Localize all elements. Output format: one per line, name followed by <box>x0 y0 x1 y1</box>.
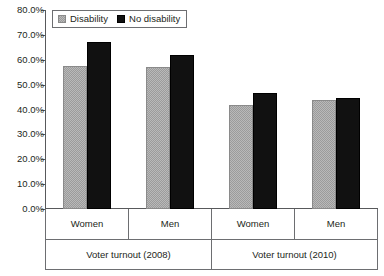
y-axis-tick-label: 80.0% <box>0 5 44 15</box>
category-axis-subgroups: WomenMenWomenMen <box>45 209 378 240</box>
bar-no-disability-1 <box>170 55 194 209</box>
bar-disability-1 <box>146 67 170 209</box>
category-label-2: Women <box>211 209 294 239</box>
legend-item-no-disability: No disability <box>117 13 180 24</box>
bar-disability-0 <box>63 66 87 209</box>
y-axis-tick-label: 70.0% <box>0 30 44 40</box>
category-label-0: Women <box>46 209 128 239</box>
y-axis-tick-label: 10.0% <box>0 179 44 189</box>
legend-swatch-disability <box>58 15 66 23</box>
bar-no-disability-3 <box>336 98 360 209</box>
group-label-1: Voter turnout (2010) <box>211 240 377 269</box>
plot-area <box>45 10 378 209</box>
bar-disability-3 <box>312 100 336 209</box>
group-label-0: Voter turnout (2008) <box>46 240 211 269</box>
legend-item-disability: Disability <box>58 13 108 24</box>
category-label-1: Men <box>128 209 211 239</box>
legend-label-disability: Disability <box>70 13 108 24</box>
y-axis-tick-label: 20.0% <box>0 154 44 164</box>
y-axis-tick-label: 40.0% <box>0 105 44 115</box>
y-axis-tick-label: 60.0% <box>0 55 44 65</box>
chart-legend: Disability No disability <box>52 10 187 28</box>
bar-no-disability-0 <box>87 42 111 209</box>
bar-disability-2 <box>229 105 253 209</box>
legend-swatch-no-disability <box>117 15 125 23</box>
legend-label-no-disability: No disability <box>129 13 180 24</box>
category-label-3: Men <box>294 209 377 239</box>
y-axis-tick-label: 30.0% <box>0 129 44 139</box>
y-axis-tick-label: 50.0% <box>0 80 44 90</box>
category-axis-groups: Voter turnout (2008)Voter turnout (2010) <box>45 240 378 270</box>
y-axis-tick-label: 0.0% <box>0 204 44 214</box>
bar-chart: 0.0%10.0%20.0%30.0%40.0%50.0%60.0%70.0%8… <box>0 0 384 276</box>
bar-no-disability-2 <box>253 93 277 209</box>
